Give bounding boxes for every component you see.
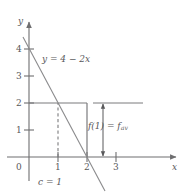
line-equation-label: y = 4 − 2x — [42, 55, 90, 64]
y-tick-label-4: 4 — [16, 45, 22, 54]
average-value-figure: y x 0 4 3 2 1 1 2 3 y = 4 − 2x c = 1 f(1… — [0, 0, 185, 193]
tick-label-origin: 0 — [16, 163, 22, 172]
c-value-label: c = 1 — [38, 178, 62, 187]
average-value-label-subscript: av — [121, 124, 128, 131]
y-axis-label: y — [18, 17, 23, 26]
x-tick-label-2: 2 — [84, 163, 90, 172]
x-tick-label-3: 3 — [113, 163, 119, 172]
x-tick-label-1: 1 — [55, 163, 61, 172]
average-value-label: f(1) = fav — [88, 122, 128, 131]
average-value-label-main: f(1) = f — [88, 121, 121, 131]
figure-canvas — [0, 0, 185, 193]
y-tick-label-3: 3 — [16, 72, 22, 81]
y-tick-label-2: 2 — [16, 99, 22, 108]
y-tick-label-1: 1 — [16, 126, 22, 135]
x-axis-label: x — [172, 163, 177, 172]
